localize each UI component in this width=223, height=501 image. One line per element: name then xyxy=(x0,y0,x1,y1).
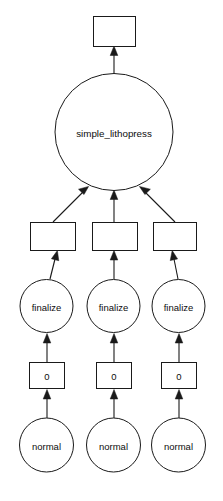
node-zero-box-left-label: 0 xyxy=(44,371,49,382)
node-mid-box-right[interactable] xyxy=(154,223,197,251)
edge-zerobox-left-to-finalize xyxy=(43,334,51,363)
node-root-circle-label: simple_lithopress xyxy=(76,128,152,139)
edge-root-to-top-box xyxy=(110,46,118,74)
edge-midbox-center-to-root xyxy=(110,190,118,222)
edge-zerobox-right-to-finalize xyxy=(175,334,183,363)
node-normal-center-label: normal xyxy=(99,441,128,452)
node-zero-box-left[interactable]: 0 xyxy=(30,363,65,389)
edge-normal-left-to-zerobox xyxy=(43,390,51,419)
node-finalize-left[interactable]: finalize xyxy=(20,280,73,333)
node-mid-box-center[interactable] xyxy=(93,223,138,251)
edge-finalize-right-to-midbox xyxy=(170,251,178,280)
node-finalize-right[interactable]: finalize xyxy=(152,280,205,333)
node-normal-left-label: normal xyxy=(32,441,61,452)
node-finalize-right-label: finalize xyxy=(164,302,194,313)
node-finalize-left-label: finalize xyxy=(32,302,62,313)
edge-zerobox-center-to-finalize xyxy=(110,334,118,363)
edge-normal-center-to-zerobox xyxy=(110,390,118,419)
node-normal-center[interactable]: normal xyxy=(87,418,141,472)
node-zero-box-center[interactable]: 0 xyxy=(97,363,132,389)
node-zero-box-right[interactable]: 0 xyxy=(162,363,197,389)
graph-diagram: simple_lithopress finalize finalize fina… xyxy=(0,0,223,501)
node-zero-box-right-label: 0 xyxy=(176,371,181,382)
node-root-circle[interactable]: simple_lithopress xyxy=(55,74,173,191)
node-zero-box-center-label: 0 xyxy=(111,371,116,382)
edge-finalize-center-to-midbox xyxy=(110,251,118,280)
edge-midbox-right-to-root xyxy=(139,186,175,222)
node-normal-right-label: normal xyxy=(164,441,193,452)
node-normal-right[interactable]: normal xyxy=(152,418,206,472)
node-top-box[interactable] xyxy=(94,17,136,47)
edge-finalize-left-to-midbox xyxy=(50,251,59,280)
node-mid-box-left[interactable] xyxy=(31,223,76,251)
node-finalize-center-label: finalize xyxy=(99,302,129,313)
edge-normal-right-to-zerobox xyxy=(175,390,183,419)
node-normal-left[interactable]: normal xyxy=(20,418,74,472)
edge-midbox-left-to-root xyxy=(53,186,89,222)
node-finalize-center[interactable]: finalize xyxy=(87,280,140,333)
